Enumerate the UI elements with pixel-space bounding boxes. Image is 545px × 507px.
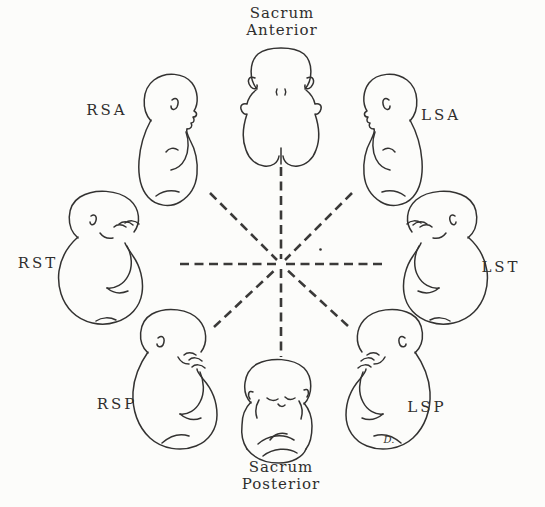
title-line-1: Sacrum xyxy=(242,459,320,476)
title-line-2: Posterior xyxy=(242,476,320,493)
fetus-rst-figure xyxy=(59,191,143,324)
fetus-lsa-figure xyxy=(364,74,422,205)
stray-ink-dot xyxy=(319,248,322,251)
title-line-1: Sacrum xyxy=(246,5,318,22)
title-sacrum-posterior: Sacrum Posterior xyxy=(242,459,320,493)
label-rst: RST xyxy=(18,254,59,272)
label-rsp: RSP xyxy=(97,395,138,413)
axis-northwest xyxy=(210,193,277,260)
label-rsa: RSA xyxy=(86,101,127,119)
fetus-sacrum-anterior-figure xyxy=(241,48,321,166)
axis-southwest xyxy=(214,268,277,327)
fetus-rsa-figure xyxy=(139,74,197,205)
title-sacrum-anterior: Sacrum Anterior xyxy=(246,5,318,39)
fetus-sacrum-posterior-figure xyxy=(242,359,312,463)
dashed-axes xyxy=(180,167,384,357)
fetus-lst-figure xyxy=(403,191,487,324)
title-line-2: Anterior xyxy=(246,22,318,39)
fetus-rsp-figure xyxy=(133,309,217,449)
fetal-positions-illustration xyxy=(0,0,545,507)
label-lsa: LSA xyxy=(421,106,461,124)
fetal-positions-diagram: Sacrum Anterior Sacrum Posterior RSA LSA… xyxy=(0,0,545,507)
label-lsp: LSP xyxy=(407,398,446,416)
fetus-lsp-figure xyxy=(346,309,430,449)
axis-southeast xyxy=(285,268,348,326)
label-lst: LST xyxy=(481,258,520,276)
axis-northeast xyxy=(285,193,352,260)
artist-signature: D. xyxy=(384,434,395,445)
